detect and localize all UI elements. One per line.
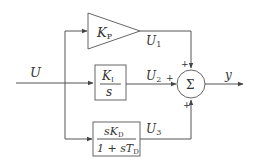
u1-sign: + <box>181 59 189 69</box>
u1-label: U1 <box>146 34 161 49</box>
derivative-denominator: 1 + sTD <box>97 142 139 156</box>
pid-block-diagram: U KP U1 + KI s U2 + sKD 1 + sTD U3 + Σ y <box>0 0 256 167</box>
sigma-icon: Σ <box>186 78 194 92</box>
u2-sign: + <box>166 73 174 83</box>
u2-label: U2 <box>146 69 161 84</box>
u3-sign: + <box>183 100 191 110</box>
integral-denominator: s <box>106 85 112 99</box>
input-label: U <box>30 65 42 80</box>
proportional-gain-block <box>88 13 140 49</box>
u3-label: U3 <box>146 122 161 137</box>
output-label: y <box>224 68 232 82</box>
